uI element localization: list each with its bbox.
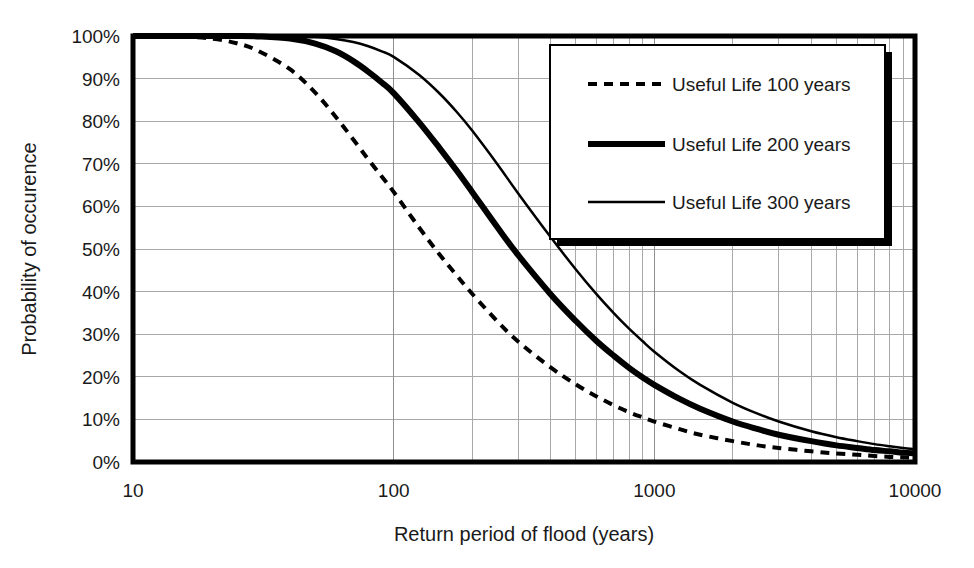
x-tick-label: 10000: [889, 480, 942, 501]
y-tick-label: 20%: [82, 367, 120, 388]
chart-canvas: 0%10%20%30%40%50%60%70%80%90%100% 101001…: [0, 0, 974, 568]
flood-risk-chart: 0%10%20%30%40%50%60%70%80%90%100% 101001…: [0, 0, 974, 568]
y-tick-label: 70%: [82, 154, 120, 175]
y-tick-label: 50%: [82, 239, 120, 260]
y-tick-label: 80%: [82, 111, 120, 132]
x-axis-title: Return period of flood (years): [394, 523, 654, 545]
y-tick-label: 100%: [71, 26, 120, 47]
y-tick-label: 40%: [82, 282, 120, 303]
legend-label-200: Useful Life 200 years: [672, 134, 851, 155]
y-tick-label: 60%: [82, 196, 120, 217]
x-tick-label: 1000: [633, 480, 675, 501]
y-tick-label: 10%: [82, 409, 120, 430]
legend-label-100: Useful Life 100 years: [672, 74, 851, 95]
x-tick-label: 100: [378, 480, 410, 501]
legend-label-300: Useful Life 300 years: [672, 192, 851, 213]
y-tick-label: 90%: [82, 69, 120, 90]
y-tick-label: 30%: [82, 324, 120, 345]
y-axis-title: Probability of occurence: [18, 142, 40, 355]
chart-legend: Useful Life 100 yearsUseful Life 200 yea…: [550, 45, 892, 246]
x-tick-label: 10: [122, 480, 143, 501]
y-tick-label: 0%: [93, 452, 121, 473]
